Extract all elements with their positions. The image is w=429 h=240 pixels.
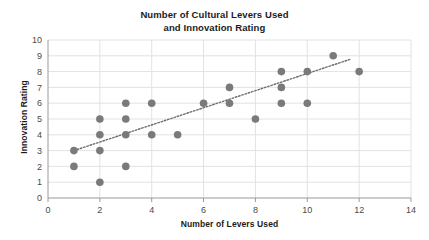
y-tick-label: 10 xyxy=(32,35,42,45)
x-tick-label: 2 xyxy=(97,205,102,215)
data-point xyxy=(96,178,104,186)
data-point xyxy=(303,99,311,107)
data-point xyxy=(226,99,234,107)
plot-area: 01234567891002468101214 xyxy=(0,0,429,240)
y-tick-label: 6 xyxy=(37,98,42,108)
data-point xyxy=(148,131,156,139)
data-point xyxy=(278,84,286,92)
data-point xyxy=(122,131,130,139)
y-tick-label: 4 xyxy=(37,130,42,140)
data-point xyxy=(96,147,104,155)
data-point xyxy=(226,84,234,92)
data-point xyxy=(200,99,208,107)
data-point xyxy=(174,131,182,139)
data-point xyxy=(303,68,311,76)
data-point xyxy=(96,115,104,123)
y-tick-label: 3 xyxy=(37,146,42,156)
x-tick-label: 6 xyxy=(201,205,206,215)
data-point xyxy=(122,115,130,123)
y-tick-label: 7 xyxy=(37,83,42,93)
x-tick-label: 14 xyxy=(406,205,416,215)
y-tick-label: 9 xyxy=(37,51,42,61)
data-point xyxy=(148,99,156,107)
y-tick-label: 0 xyxy=(37,193,42,203)
data-point xyxy=(122,163,130,171)
scatter-chart: Number of Cultural Levers Used and Innov… xyxy=(0,0,429,240)
data-point xyxy=(70,163,78,171)
data-point xyxy=(70,147,78,155)
axis-tick-labels: 01234567891002468101214 xyxy=(32,35,416,215)
x-tick-label: 12 xyxy=(354,205,364,215)
x-tick-label: 0 xyxy=(45,205,50,215)
y-tick-label: 8 xyxy=(37,67,42,77)
data-point xyxy=(252,115,260,123)
data-point xyxy=(355,68,363,76)
y-tick-label: 1 xyxy=(37,177,42,187)
x-axis-title: Number of Levers Used xyxy=(48,219,411,229)
data-point xyxy=(122,99,130,107)
data-point xyxy=(278,68,286,76)
y-tick-label: 5 xyxy=(37,114,42,124)
x-tick-label: 4 xyxy=(149,205,154,215)
data-point xyxy=(329,52,337,60)
x-tick-label: 10 xyxy=(302,205,312,215)
y-tick-label: 2 xyxy=(37,162,42,172)
x-tick-label: 8 xyxy=(253,205,258,215)
data-point xyxy=(278,99,286,107)
data-point xyxy=(96,131,104,139)
